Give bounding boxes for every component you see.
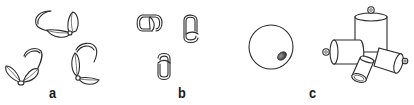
calotte-icon (184, 15, 198, 42)
clamshell-tip-icon (6, 49, 42, 85)
calotte-icon (158, 54, 170, 80)
panel-c-illustration (249, 7, 408, 84)
end-cap-icon (374, 48, 408, 74)
panel-label-b: b (178, 85, 186, 100)
clamshell-tip-icon (36, 11, 79, 37)
calotte-icon (137, 15, 162, 31)
panel-a-illustration (6, 11, 99, 85)
panel-b-illustration (137, 15, 198, 80)
end-cap-icon (323, 40, 364, 64)
panel-label-c: c (309, 85, 316, 100)
crimp-bead-ball-icon (249, 25, 293, 69)
findings-figure: a b c (0, 0, 414, 105)
panel-label-a: a (49, 85, 56, 100)
clamshell-tip-icon (72, 43, 99, 84)
